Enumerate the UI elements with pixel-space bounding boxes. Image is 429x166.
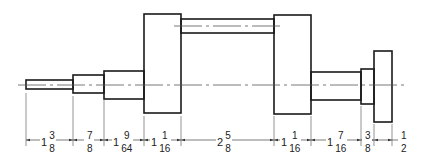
shaft-step-2 xyxy=(73,75,104,93)
shaft-outline xyxy=(26,14,392,122)
dim-whole: 1 xyxy=(41,136,47,148)
dim-label-3: 1 964 xyxy=(112,124,133,160)
dim-label-7: 1 716 xyxy=(326,124,347,160)
right-block xyxy=(274,15,311,114)
dim-label-5: 2 58 xyxy=(216,124,232,160)
dim-label-6: 1 116 xyxy=(280,124,301,160)
shaft-step-5 xyxy=(361,69,374,104)
dim-label-4: 1 116 xyxy=(150,124,171,160)
shaft-step-4 xyxy=(311,72,361,100)
dim-label-2: 78 xyxy=(84,124,94,160)
dim-label-1: 1 38 xyxy=(40,124,56,160)
center-lines xyxy=(18,26,406,85)
shaft-step-1 xyxy=(26,80,73,89)
flange xyxy=(374,51,392,122)
left-block xyxy=(144,14,181,113)
dim-label-8: 38 xyxy=(362,124,372,160)
dim-label-9: 12 xyxy=(398,124,408,160)
